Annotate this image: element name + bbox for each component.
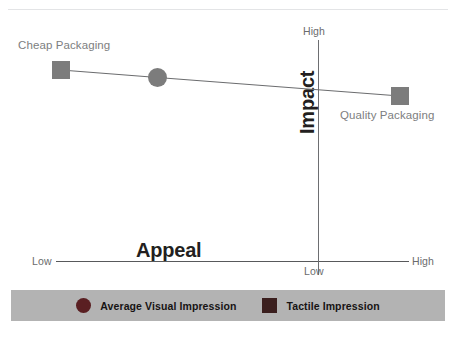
legend-item-average-visual-impression: Average Visual Impression [76,298,236,313]
series-connector-line [0,14,456,276]
legend-label-average-visual-impression: Average Visual Impression [100,300,236,312]
marker-cheap-packaging-square [52,61,70,79]
packaging-impact-appeal-chart: Low High High Low Appeal Impact Cheap Pa… [0,0,456,337]
plot-area: Low High High Low Appeal Impact Cheap Pa… [0,14,456,276]
legend-item-tactile-impression: Tactile Impression [262,298,379,313]
marker-average-visual-impression-circle [148,68,167,87]
top-divider [8,9,448,10]
point-label-quality-packaging: Quality Packaging [340,109,434,121]
circle-marker-icon [76,298,91,313]
chart-legend: Average Visual Impression Tactile Impres… [11,290,445,321]
legend-label-tactile-impression: Tactile Impression [286,300,379,312]
marker-quality-packaging-square [391,87,409,105]
point-label-cheap-packaging: Cheap Packaging [18,39,110,51]
square-marker-icon [262,298,277,313]
